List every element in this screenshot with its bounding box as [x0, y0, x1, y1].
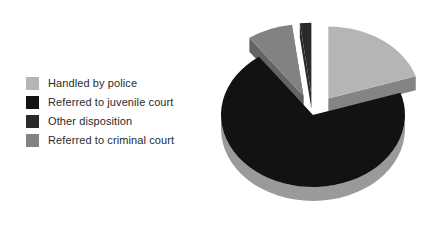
legend-swatch-referred-to-criminal-court	[26, 134, 39, 147]
pie-slice-other-disposition[interactable]	[300, 23, 312, 95]
legend-item-handled-by-police[interactable]: Handled by police	[26, 74, 206, 93]
legend-swatch-other-disposition	[26, 115, 39, 128]
legend-label-other-disposition: Other disposition	[48, 115, 132, 128]
legend-item-referred-to-juvenile-court[interactable]: Referred to juvenile court	[26, 93, 206, 112]
legend-swatch-handled-by-police	[26, 77, 39, 90]
legend-label-handled-by-police: Handled by police	[48, 77, 137, 90]
legend-label-referred-to-juvenile-court: Referred to juvenile court	[48, 96, 174, 109]
legend-label-referred-to-criminal-court: Referred to criminal court	[48, 134, 174, 147]
chart-legend: Handled by police Referred to juvenile c…	[26, 74, 206, 150]
legend-item-other-disposition[interactable]: Other disposition	[26, 112, 206, 131]
legend-swatch-referred-to-juvenile-court	[26, 96, 39, 109]
legend-item-referred-to-criminal-court[interactable]: Referred to criminal court	[26, 131, 206, 150]
pie-chart-plot-area	[200, 0, 426, 228]
pie-slice-group	[221, 23, 416, 201]
pie-chart-svg	[200, 0, 426, 228]
pie-chart-figure: Handled by police Referred to juvenile c…	[0, 0, 426, 228]
